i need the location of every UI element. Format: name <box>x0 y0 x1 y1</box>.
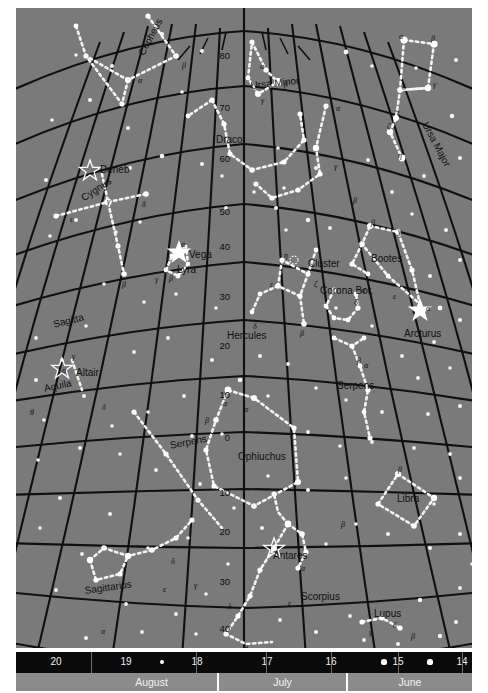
date-tick <box>196 652 197 673</box>
date-tick <box>398 652 399 673</box>
date-number[interactable]: 19 <box>120 656 131 667</box>
sky-chart-panel[interactable]: CepheusUrsa MinorUrsa MajorDracoCygnusLy… <box>16 8 472 648</box>
month-cell[interactable]: July <box>219 673 346 691</box>
date-scale-bar[interactable]: 20191817161514 <box>16 652 472 673</box>
date-bar-star-dot <box>427 659 432 664</box>
date-tick <box>91 652 92 673</box>
month-cell[interactable]: June <box>348 673 472 691</box>
date-number[interactable]: 17 <box>261 656 272 667</box>
date-tick <box>331 652 332 673</box>
month-cell-partial[interactable] <box>16 673 86 691</box>
month-scale-bar[interactable]: AugustJulyJune <box>16 673 472 691</box>
month-cell[interactable]: August <box>86 673 217 691</box>
sky-chart-svg <box>16 8 472 648</box>
star-chart-page: CepheusUrsa MinorUrsa MajorDracoCygnusLy… <box>0 0 488 693</box>
date-tick <box>266 652 267 673</box>
date-tick <box>462 652 463 673</box>
date-number[interactable]: 18 <box>191 656 202 667</box>
date-bar-star-dot <box>381 659 386 664</box>
date-number[interactable]: 20 <box>50 656 61 667</box>
date-bar-star-dot <box>160 660 165 665</box>
